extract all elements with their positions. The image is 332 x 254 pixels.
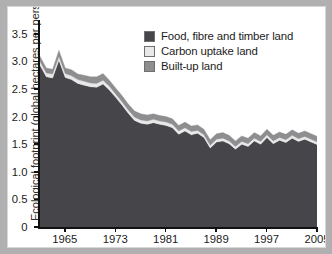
- y-tick-label: 3.0: [12, 55, 28, 67]
- legend-swatch-builtup-icon: [144, 61, 155, 72]
- y-tick-label: 1.0: [12, 166, 28, 178]
- area-chart-figure: Ecological footprint (global hectares pe…: [8, 7, 325, 247]
- legend-label-builtup: Built-up land: [161, 60, 222, 72]
- x-tick-label: 1981: [153, 233, 178, 245]
- x-tick-mark: [266, 227, 268, 232]
- figure-sheet: Ecological footprint (global hectares pe…: [8, 7, 325, 247]
- y-tick-mark: 1.0: [34, 171, 40, 173]
- y-tick-mark: 0: [34, 226, 40, 228]
- x-tick-label: 1973: [103, 233, 128, 245]
- x-tick-mark: [64, 227, 66, 232]
- legend-item-food: Food, fibre and timber land: [144, 29, 316, 44]
- y-tick-label: 1.5: [12, 138, 28, 150]
- y-tick-label: 0: [21, 221, 27, 233]
- legend-item-carbon: Carbon uptake land: [144, 44, 316, 59]
- legend-swatch-food-icon: [144, 31, 155, 42]
- y-tick-mark: 2.0: [34, 116, 40, 118]
- y-tick-label: 2.5: [12, 83, 28, 95]
- legend-item-builtup: Built-up land: [144, 59, 316, 74]
- x-tick-label: 1997: [254, 233, 279, 245]
- y-tick-label: 3.5: [12, 28, 28, 40]
- page-background: Ecological footprint (global hectares pe…: [0, 0, 332, 254]
- y-axis-line: [38, 20, 40, 227]
- legend-swatch-carbon-icon: [144, 46, 155, 57]
- y-tick-mark: 3.5: [34, 33, 40, 35]
- y-tick-mark: 1.5: [34, 143, 40, 145]
- legend-label-food: Food, fibre and timber land: [161, 30, 293, 42]
- area-band: [40, 60, 317, 227]
- x-tick-label: 1989: [204, 233, 229, 245]
- y-tick-mark: 2.5: [34, 88, 40, 90]
- y-tick-mark: 3.0: [34, 61, 40, 63]
- x-tick-mark: [316, 227, 318, 232]
- legend-label-carbon: Carbon uptake land: [161, 45, 258, 57]
- y-tick-label: 2.0: [12, 111, 28, 123]
- x-tick-mark: [115, 227, 117, 232]
- x-tick-label: 2005: [304, 233, 325, 245]
- x-tick-mark: [165, 227, 167, 232]
- x-tick-mark: [215, 227, 217, 232]
- y-tick-label: 0.5: [12, 193, 28, 205]
- y-tick-mark: 0.5: [34, 199, 40, 201]
- x-tick-label: 1965: [52, 233, 77, 245]
- x-axis-line: [38, 227, 317, 229]
- chart-legend: Food, fibre and timber land Carbon uptak…: [144, 29, 316, 74]
